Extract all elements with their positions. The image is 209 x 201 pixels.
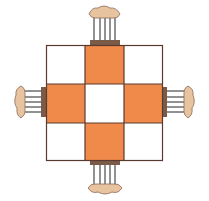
cell-top-center — [85, 45, 124, 84]
chair-top — [89, 6, 120, 46]
tablecloth-grid — [46, 45, 163, 161]
cell-bottom-center — [85, 123, 124, 161]
chair-left — [15, 86, 47, 118]
cell-middle-left — [46, 84, 85, 123]
chair-right — [162, 86, 194, 118]
chair-bottom — [88, 160, 122, 194]
table-diagram — [0, 0, 209, 201]
cell-middle-right — [124, 84, 163, 123]
